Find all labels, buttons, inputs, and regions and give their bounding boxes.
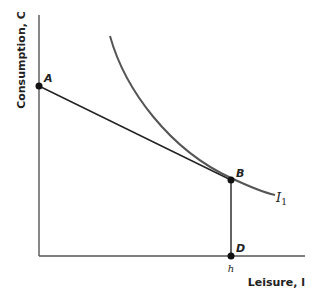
label-a: A xyxy=(43,72,53,85)
point-d xyxy=(228,253,235,260)
labor-leisure-diagram: Consumption, C Leisure, l A B D I1 h xyxy=(0,0,323,299)
indifference-curve xyxy=(110,36,275,195)
label-d: D xyxy=(236,242,245,255)
x-axis-title: Leisure, l xyxy=(248,276,305,289)
y-axis-title: Consumption, C xyxy=(15,11,28,109)
label-b: B xyxy=(236,167,244,180)
point-a xyxy=(36,83,43,90)
tick-label-h: h xyxy=(228,263,234,274)
curve-label: I1 xyxy=(275,190,287,207)
point-b xyxy=(228,177,235,184)
budget-line xyxy=(39,86,231,180)
